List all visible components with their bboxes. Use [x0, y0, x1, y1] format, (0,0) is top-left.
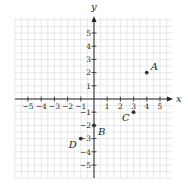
y-tick-label: −4 [80, 148, 91, 157]
coordinate-plane: −5−4−3−2−112345−5−4−3−2−112345 ABCD x y [0, 0, 188, 186]
y-tick-label: 4 [86, 42, 91, 51]
y-tick-label: 1 [86, 82, 91, 91]
x-tick-label: 5 [158, 102, 163, 111]
y-tick-label: −5 [80, 161, 91, 170]
x-tick-label: 2 [118, 102, 123, 111]
point-label: B [97, 126, 105, 137]
x-tick-label: −4 [36, 102, 47, 111]
y-tick-label: 3 [86, 55, 91, 64]
y-tick-label: −2 [80, 121, 91, 130]
x-tick-label: 4 [144, 102, 149, 111]
point-label: A [150, 61, 158, 72]
y-tick-label: 5 [86, 29, 91, 38]
point-label: C [122, 112, 130, 123]
x-tick-label: 1 [105, 102, 110, 111]
grid-lines [15, 18, 172, 178]
y-tick-label: 2 [86, 68, 91, 77]
y-axis-label: y [90, 1, 97, 12]
axes [15, 16, 173, 178]
x-tick-label: 3 [131, 102, 136, 111]
x-tick-label: −5 [22, 102, 33, 111]
point-label: D [68, 139, 77, 150]
y-tick-label: −1 [80, 108, 91, 117]
x-axis-label: x [176, 93, 182, 104]
x-tick-label: −2 [62, 102, 73, 111]
x-tick-label: −3 [49, 102, 60, 111]
